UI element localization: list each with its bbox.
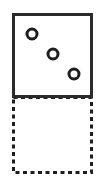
figure-svg [0,0,101,183]
dashed-square [14,98,92,173]
ring-2 [48,49,58,59]
ring-1 [27,29,37,39]
diagram-canvas [0,0,101,183]
ring-3 [69,69,79,79]
